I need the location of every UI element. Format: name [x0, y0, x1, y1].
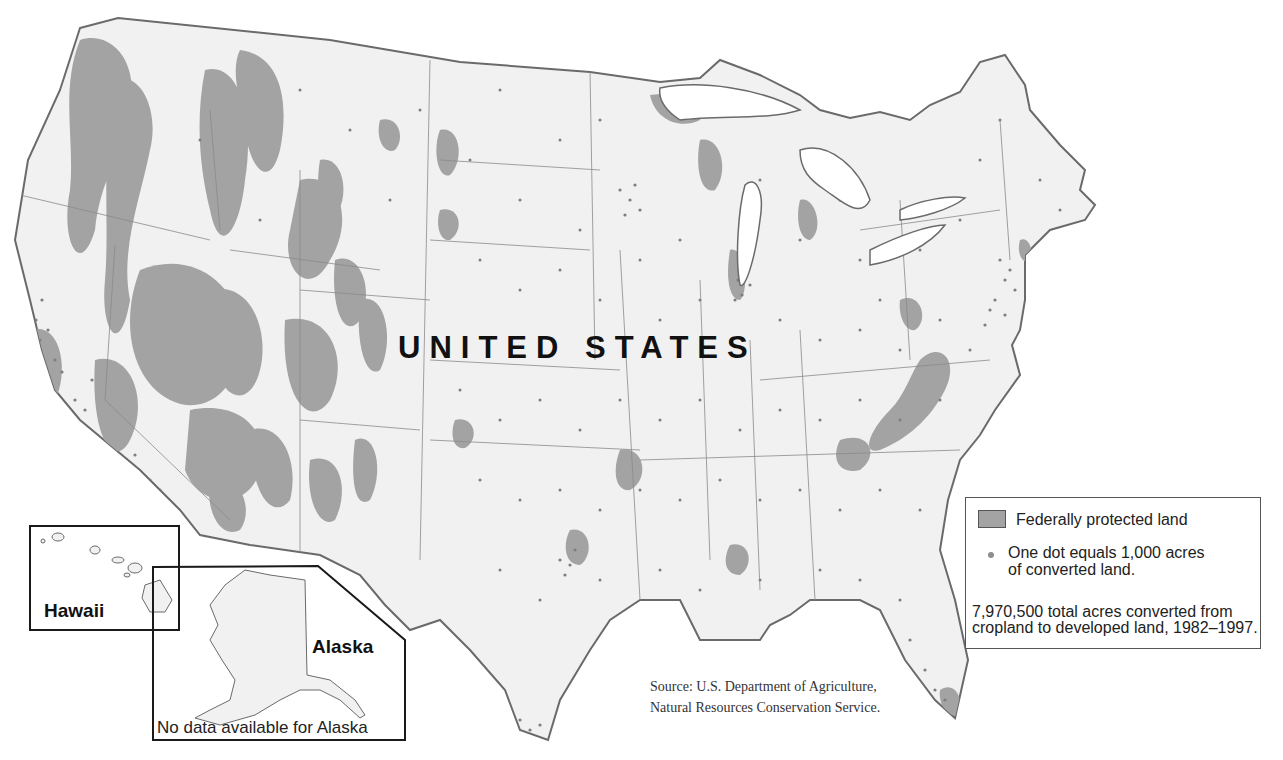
hawaii-label: Hawaii	[44, 600, 104, 622]
alaska-label: Alaska	[312, 636, 373, 658]
dot-label-line1: One dot equals 1,000 acres	[1008, 544, 1205, 561]
dot-label-line2: of converted land.	[1008, 561, 1205, 578]
conversion-summary: 7,970,500 total acres converted from cro…	[972, 604, 1258, 636]
map-legend: Federally protected land One dot equals …	[965, 497, 1261, 649]
source-line2: Natural Resources Conservation Service.	[650, 697, 880, 718]
protected-land-swatch-icon	[978, 510, 1006, 528]
protected-land-label: Federally protected land	[1016, 511, 1188, 528]
source-line1: Source: U.S. Department of Agriculture,	[650, 676, 880, 697]
country-label: UNITED STATES	[398, 330, 757, 366]
dot-legend-text: One dot equals 1,000 acres of converted …	[1008, 544, 1205, 578]
alaska-no-data-note: No data available for Alaska	[157, 718, 368, 738]
dot-symbol-icon	[988, 552, 994, 558]
source-citation: Source: U.S. Department of Agriculture, …	[650, 676, 880, 718]
